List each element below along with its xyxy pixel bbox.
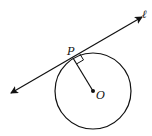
- radius-op: [73, 58, 93, 91]
- center-point: [91, 89, 95, 93]
- label-o: O: [96, 89, 105, 102]
- tangent-line: [42, 17, 142, 75]
- diagram-canvas: P O ℓ: [0, 0, 152, 136]
- label-p: P: [66, 45, 75, 58]
- label-l: ℓ: [142, 8, 147, 21]
- tangent-diagram: P O ℓ: [0, 0, 152, 136]
- tangent-line-left: [11, 75, 42, 93]
